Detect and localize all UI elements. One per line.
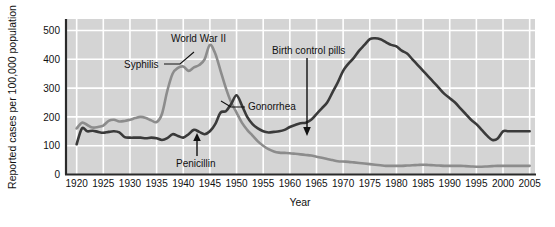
- y-tick-label: 400: [43, 54, 60, 65]
- x-tick-label: 2000: [492, 178, 515, 189]
- birth-control-pills-label: Birth control pills: [272, 45, 345, 56]
- x-tick-label: 1990: [439, 178, 462, 189]
- y-axis-title: Reported cases per 100,000 population: [6, 5, 18, 189]
- chart-canvas: 0100200300400500 19201925193019351940194…: [0, 0, 555, 227]
- x-tick-label: 1935: [145, 178, 168, 189]
- x-tick-label: 1995: [465, 178, 488, 189]
- y-tick-label: 500: [43, 25, 60, 36]
- y-tick-label: 300: [43, 83, 60, 94]
- x-tick-label: 1965: [305, 178, 328, 189]
- x-tick-label: 2005: [519, 178, 542, 189]
- x-tick-label: 1975: [359, 178, 382, 189]
- penicillin-label: Penicillin: [176, 158, 215, 169]
- x-tick-label: 1960: [279, 178, 302, 189]
- y-tick-label: 0: [54, 169, 60, 180]
- x-tick-label: 1980: [385, 178, 408, 189]
- y-tick-label: 100: [43, 140, 60, 151]
- x-tick-label: 1945: [199, 178, 222, 189]
- x-tick-label: 1955: [252, 178, 275, 189]
- x-tick-label: 1985: [412, 178, 435, 189]
- x-tick-label: 1925: [92, 178, 115, 189]
- syphilis-label: Syphilis: [124, 59, 158, 70]
- y-tick-label: 200: [43, 112, 60, 123]
- x-tick-label: 1970: [332, 178, 355, 189]
- plot-background: [66, 19, 535, 174]
- x-tick-label: 1930: [119, 178, 142, 189]
- x-tick-label: 1940: [172, 178, 195, 189]
- world-war-2-label: World War II: [171, 33, 226, 44]
- x-axis-title: Year: [289, 196, 311, 208]
- std-incidence-chart: 0100200300400500 19201925193019351940194…: [0, 0, 555, 227]
- x-tick-label: 1950: [225, 178, 248, 189]
- x-tick-labels: 1920192519301935194019451950195519601965…: [66, 178, 542, 189]
- gonorrhea-label: Gonorrhea: [248, 101, 296, 112]
- y-tick-labels: 0100200300400500: [43, 25, 60, 180]
- x-tick-label: 1920: [66, 178, 89, 189]
